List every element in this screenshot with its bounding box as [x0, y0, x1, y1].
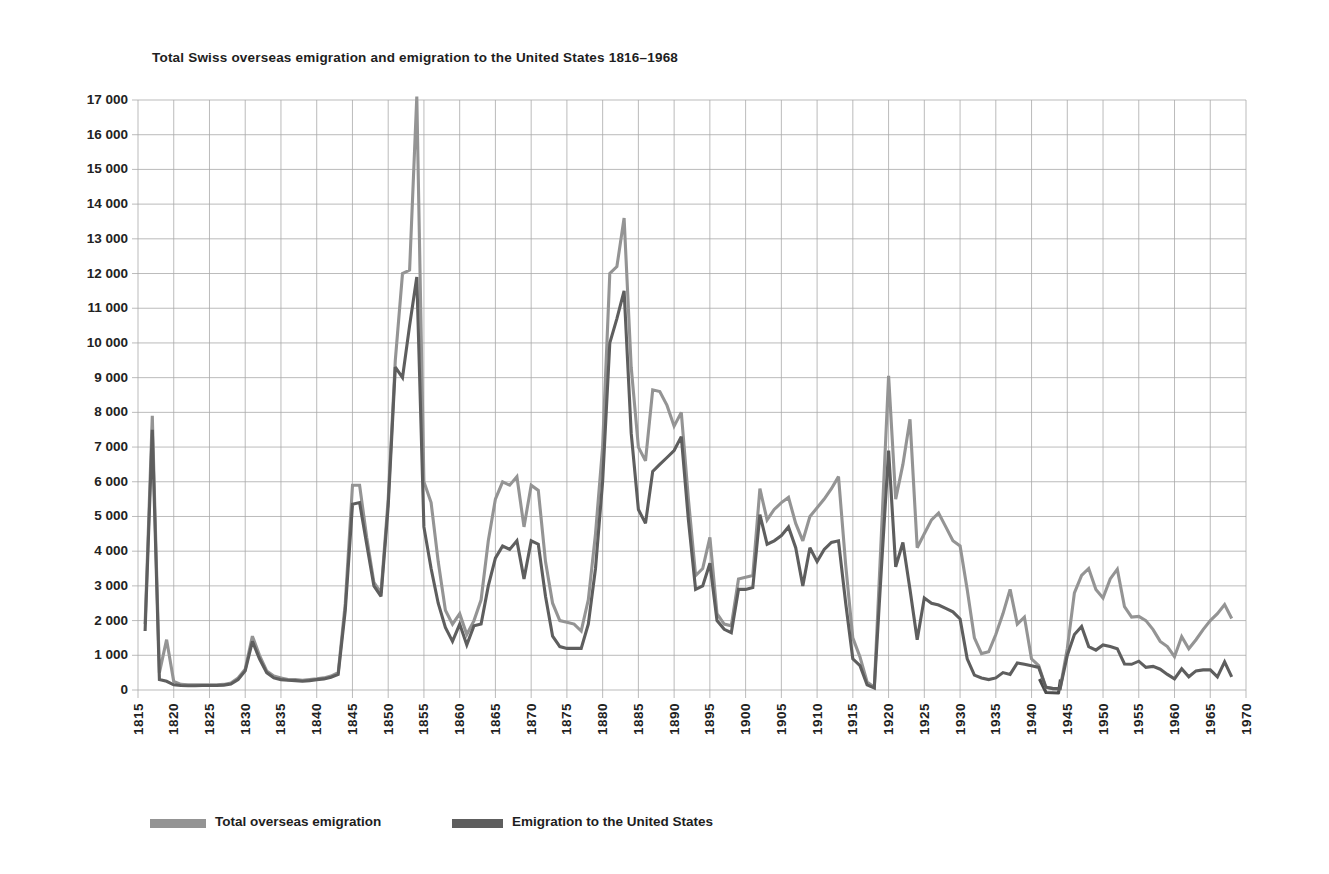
y-tick-label: 3 000: [38, 578, 128, 593]
x-tick-label: 1930: [951, 703, 969, 749]
x-tick-label: 1825: [200, 703, 218, 749]
x-tick-label: 1890: [665, 703, 683, 749]
y-tick-label: 11 000: [38, 300, 128, 315]
x-tick-label: 1880: [594, 703, 612, 749]
y-tick-label: 9 000: [38, 370, 128, 385]
x-tick-label: 1945: [1058, 703, 1076, 749]
x-tick-label: 1925: [915, 703, 933, 749]
x-tick-label: 1865: [486, 703, 504, 749]
x-tick-label: 1885: [629, 703, 647, 749]
y-tick-label: 0: [38, 682, 128, 697]
y-tick-label: 16 000: [38, 127, 128, 142]
y-tick-label: 13 000: [38, 231, 128, 246]
x-tick-label: 1875: [558, 703, 576, 749]
y-tick-label: 2 000: [38, 613, 128, 628]
x-tick-label: 1940: [1023, 703, 1041, 749]
y-tick-label: 10 000: [38, 335, 128, 350]
x-tick-label: 1870: [522, 703, 540, 749]
x-tick-label: 1915: [844, 703, 862, 749]
y-tick-label: 17 000: [38, 92, 128, 107]
y-tick-label: 15 000: [38, 161, 128, 176]
x-tick-label: 1830: [236, 703, 254, 749]
x-tick-label: 1895: [701, 703, 719, 749]
y-tick-label: 8 000: [38, 404, 128, 419]
x-tick-label: 1955: [1130, 703, 1148, 749]
x-tick-label: 1970: [1237, 703, 1255, 749]
x-tick-label: 1815: [129, 703, 147, 749]
y-tick-label: 12 000: [38, 266, 128, 281]
chart-title: Total Swiss overseas emigration and emig…: [152, 50, 678, 65]
y-tick-label: 6 000: [38, 474, 128, 489]
x-tick-label: 1920: [880, 703, 898, 749]
y-tick-label: 14 000: [38, 196, 128, 211]
x-tick-label: 1950: [1094, 703, 1112, 749]
x-tick-label: 1860: [451, 703, 469, 749]
x-tick-label: 1960: [1166, 703, 1184, 749]
x-tick-label: 1935: [987, 703, 1005, 749]
x-tick-label: 1905: [772, 703, 790, 749]
y-tick-label: 1 000: [38, 647, 128, 662]
y-tick-label: 4 000: [38, 543, 128, 558]
emigration-chart-figure: Total Swiss overseas emigration and emig…: [0, 0, 1329, 874]
x-tick-label: 1910: [808, 703, 826, 749]
x-tick-label: 1900: [737, 703, 755, 749]
y-tick-label: 7 000: [38, 439, 128, 454]
x-tick-label: 1850: [379, 703, 397, 749]
x-tick-label: 1845: [343, 703, 361, 749]
x-tick-label: 1840: [308, 703, 326, 749]
x-tick-label: 1835: [272, 703, 290, 749]
y-tick-label: 5 000: [38, 508, 128, 523]
x-tick-label: 1965: [1201, 703, 1219, 749]
total-emigration-line: [145, 97, 1232, 689]
x-tick-label: 1820: [165, 703, 183, 749]
x-tick-label: 1855: [415, 703, 433, 749]
